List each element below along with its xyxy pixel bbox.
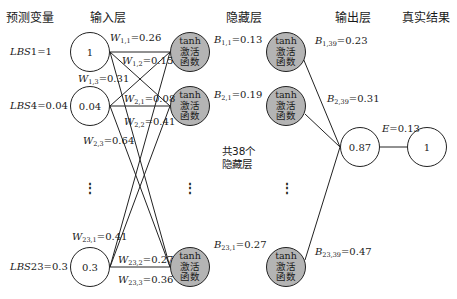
weight-label: W1,2=0.15 xyxy=(122,56,173,68)
input-node: 0.04 xyxy=(70,86,110,126)
activation-node: tanh激活函数 xyxy=(266,32,306,72)
header-true-result: 真实结果 xyxy=(402,12,450,24)
predictor-label: LBS4=0.04 xyxy=(10,101,68,111)
weight-label: W2,1=0.08 xyxy=(124,94,175,106)
bias-label: B2,1=0.19 xyxy=(214,90,262,102)
output-node: 0.87 xyxy=(340,127,380,167)
weight-label: W2,2=0.41 xyxy=(124,117,175,129)
hidden-layer-count-note: 共38个 隐藏层 xyxy=(222,145,255,171)
bias-label: B23,39=0.47 xyxy=(315,247,372,259)
predictor-label: LBS1=1 xyxy=(10,47,52,57)
weight-label: W2,3=0.64 xyxy=(83,136,134,148)
weight-label: W23,2=0.27 xyxy=(118,255,173,267)
header-output-layer: 输出层 xyxy=(335,12,371,24)
ellipsis-icon: ⋮ xyxy=(184,182,196,194)
predictor-label: LBS23=0.3 xyxy=(10,262,68,272)
activation-node: tanh激活函数 xyxy=(266,247,306,287)
bias-label: B1,1=0.13 xyxy=(214,35,262,47)
header-input-layer: 输入层 xyxy=(90,12,126,24)
input-node: 0.3 xyxy=(70,247,110,287)
ellipsis-icon: ⋮ xyxy=(84,182,96,194)
bias-label: B1,39=0.23 xyxy=(315,36,368,48)
ellipsis-icon: ⋮ xyxy=(281,182,293,194)
header-hidden-layer: 隐藏层 xyxy=(226,12,262,24)
bias-label: B2,39=0.31 xyxy=(327,94,380,106)
weight-label: W23,1=0.41 xyxy=(72,232,127,244)
activation-node: tanh激活函数 xyxy=(170,32,210,72)
input-node: 1 xyxy=(70,32,110,72)
header-predictor: 预测变量 xyxy=(6,12,54,24)
activation-node: tanh激活函数 xyxy=(170,86,210,126)
weight-label: W1,1=0.26 xyxy=(110,33,161,45)
weight-label: W1,3=0.31 xyxy=(78,74,129,86)
weight-label: W23,3=0.36 xyxy=(118,275,173,287)
bias-label: B23,1=0.27 xyxy=(214,240,267,252)
activation-node: tanh激活函数 xyxy=(170,247,210,287)
activation-node: tanh激活函数 xyxy=(266,86,306,126)
error-label: E=0.13 xyxy=(382,124,420,134)
